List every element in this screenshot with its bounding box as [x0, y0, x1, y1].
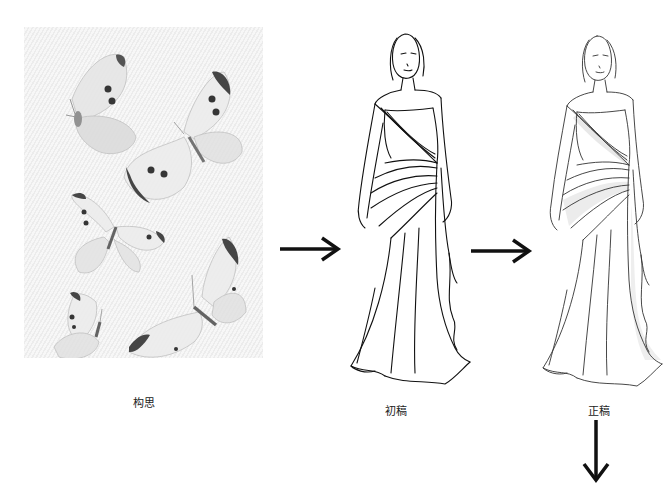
inspiration-photo: [24, 27, 263, 358]
butterflies-illustration: [24, 27, 263, 358]
arrow-right-icon: [469, 238, 533, 264]
final-draft-sketch: [535, 30, 668, 392]
step-caption-final-draft: 正稿: [569, 402, 629, 418]
butterfly-4: [54, 292, 102, 358]
butterfly-5: [129, 237, 246, 357]
step-caption-concept: 构思: [114, 394, 174, 410]
butterfly-1: [66, 54, 136, 153]
butterfly-3: [72, 193, 165, 273]
arrow-down-icon: [581, 418, 611, 484]
step-caption-first-draft: 初稿: [366, 402, 426, 418]
arrow-right-icon: [278, 236, 342, 262]
butterfly-2: [124, 72, 242, 203]
first-draft-sketch: [345, 28, 480, 388]
